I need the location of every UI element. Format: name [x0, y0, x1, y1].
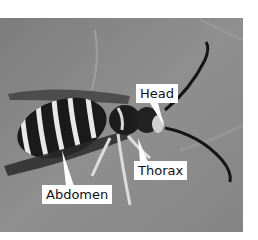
wasp-photo	[0, 18, 243, 232]
abdomen-label: Abdomen	[42, 185, 112, 204]
wasp-illustration	[0, 18, 243, 232]
head-label: Head	[136, 84, 178, 103]
thorax-label: Thorax	[134, 161, 187, 180]
